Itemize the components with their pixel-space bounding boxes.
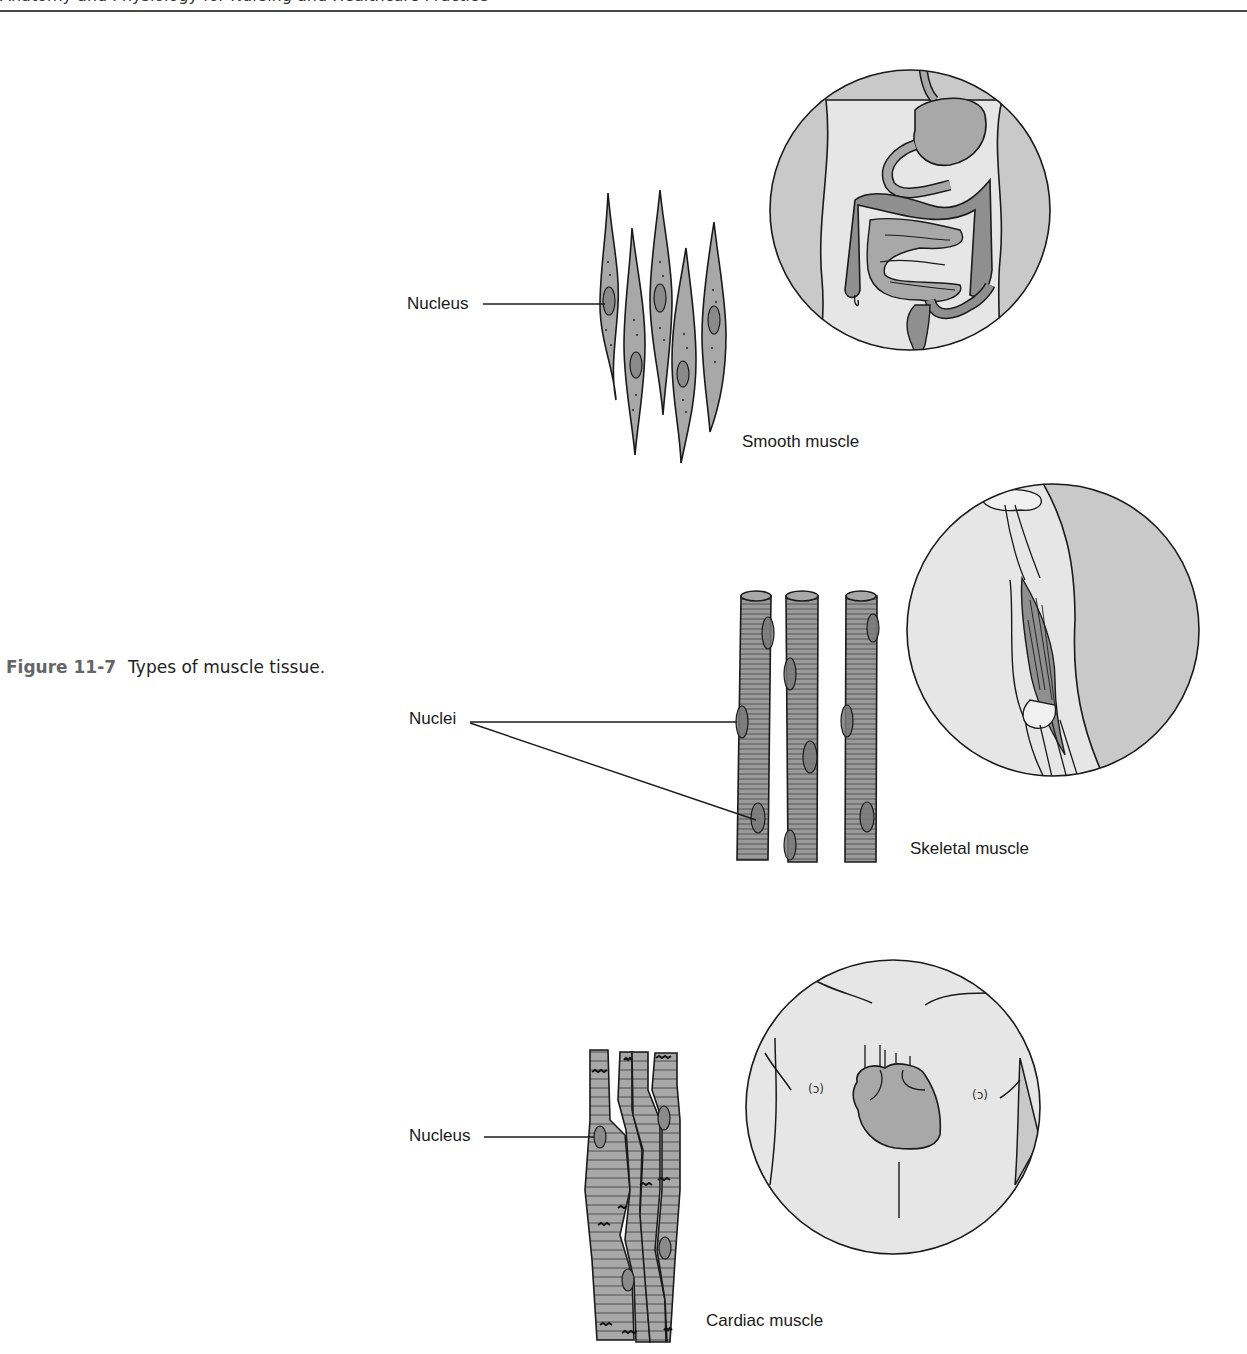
chest-heart-inset: (ↄ) (ↄ): [740, 955, 1050, 1265]
arm-biceps-inset: [900, 478, 1215, 790]
digestive-tract-inset: [760, 60, 1070, 380]
smooth-muscle-cells: [600, 190, 726, 463]
skeletal-nuclei-pointer-2: [470, 723, 756, 820]
cardiac-muscle-fibers: [585, 1050, 680, 1342]
svg-text:(ↄ): (ↄ): [808, 1082, 824, 1096]
svg-text:(ↄ): (ↄ): [972, 1088, 988, 1102]
muscle-tissue-figure: (ↄ) (ↄ): [0, 0, 1247, 1354]
